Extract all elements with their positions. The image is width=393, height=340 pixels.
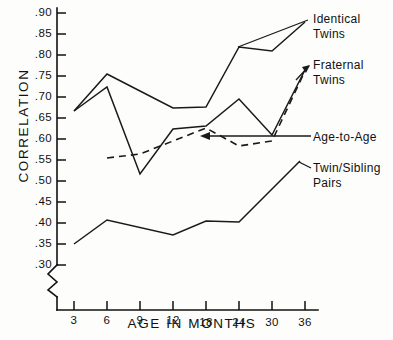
series-twin-sibling-pairs: [74, 161, 300, 244]
series-age-to-age: [107, 71, 305, 158]
leader-arrow-age-to-age: [200, 132, 210, 140]
series-identical-twins: [74, 22, 305, 111]
y-tick-label-090: .90: [6, 7, 52, 19]
y-tick-label-030: .30: [6, 259, 52, 271]
y-tick-label-085: .85: [6, 28, 52, 40]
series-label-identical-twins: Identical Twins: [313, 12, 360, 41]
leader-line-twin-sibling-pairs: [299, 162, 311, 168]
x-axis-title: AGE IN MONTHS: [72, 316, 312, 331]
y-axis-title: CORRELATION: [16, 66, 31, 186]
y-tick-label-035: .35: [6, 238, 52, 250]
y-axis-ticks: [57, 13, 66, 265]
correlation-line-chart: .90 .85 .80 .75 .70 .65 .60 .55 .50 .45 …: [0, 0, 393, 340]
y-tick-label-040: .40: [6, 217, 52, 229]
y-tick-label-080: .80: [6, 49, 52, 61]
x-axis-ticks: [74, 301, 305, 310]
series-label-twin-sibling-pairs: Twin/Sibling Pairs: [313, 161, 381, 190]
series-label-fraternal-twins: Fraternal Twins: [313, 58, 364, 87]
series-label-age-to-age: Age-to-Age: [313, 130, 377, 145]
y-tick-label-045: .45: [6, 196, 52, 208]
leader-line-identical-twins: [238, 20, 308, 47]
